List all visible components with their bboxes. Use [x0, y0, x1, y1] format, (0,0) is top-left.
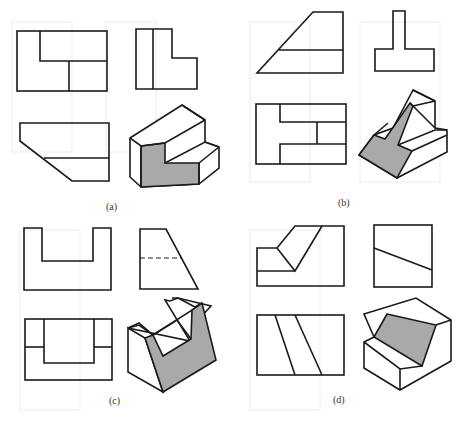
isometric-view: [359, 90, 447, 178]
front-view: [17, 31, 107, 91]
side-view: [374, 225, 432, 287]
side-view: [136, 29, 197, 89]
panel-a: (a): [17, 29, 219, 213]
panel-label-a: (a): [106, 201, 117, 213]
front-view: [257, 12, 343, 73]
panel-b: (b): [256, 11, 447, 209]
top-view: [257, 315, 344, 375]
isometric-view: [128, 298, 216, 392]
top-view: [25, 319, 112, 380]
top-view: [256, 104, 346, 164]
front-view: [24, 228, 111, 290]
panel-label-d: (d): [333, 394, 345, 406]
isometric-view: [130, 105, 219, 187]
technical-drawing-figure: (a) (b): [0, 0, 464, 422]
front-view: [257, 226, 344, 286]
panel-c: (c): [24, 228, 216, 407]
side-view: [375, 11, 434, 71]
isometric-view: [364, 298, 451, 390]
side-view: [140, 229, 198, 289]
panel-d: (d): [257, 225, 451, 406]
panel-label-c: (c): [109, 395, 120, 407]
panel-label-b: (b): [338, 197, 350, 209]
